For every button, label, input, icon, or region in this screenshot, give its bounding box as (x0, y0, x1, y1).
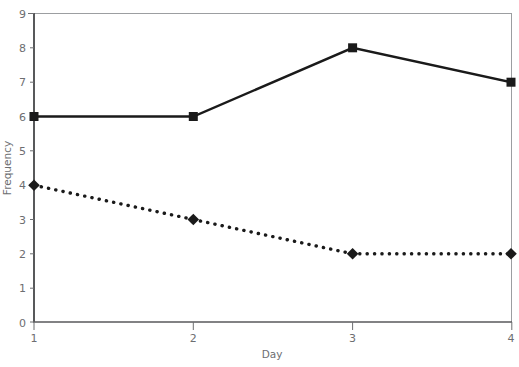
data-point-marker (189, 112, 198, 121)
y-tick-label: 8 (19, 42, 26, 55)
y-tick-label: 3 (19, 214, 26, 227)
y-tick-label: 7 (19, 76, 26, 89)
x-tick-label: 4 (508, 332, 515, 345)
y-tick-label: 1 (19, 282, 26, 295)
chart-canvas: 9 8 7 6 5 4 3 2 1 0 1 2 3 4 Day Frequenc… (0, 0, 519, 367)
data-point-marker (507, 78, 516, 87)
y-tick-label: 4 (19, 179, 26, 192)
x-tick-label: 3 (349, 332, 356, 345)
y-axis-title: Frequency (1, 141, 13, 195)
x-tick-label: 2 (190, 332, 197, 345)
data-point-marker (30, 112, 39, 121)
y-tick-label: 0 (19, 317, 26, 330)
y-tick-label: 6 (19, 111, 26, 124)
y-tick-label: 2 (19, 248, 26, 261)
x-axis-title: Day (262, 348, 283, 360)
chart-background (0, 0, 519, 367)
data-point-marker (348, 43, 357, 52)
y-tick-label: 5 (19, 145, 26, 158)
line-chart: 9 8 7 6 5 4 3 2 1 0 1 2 3 4 Day Frequenc… (0, 0, 519, 367)
y-tick-label: 9 (19, 8, 26, 21)
x-tick-label: 1 (31, 332, 38, 345)
